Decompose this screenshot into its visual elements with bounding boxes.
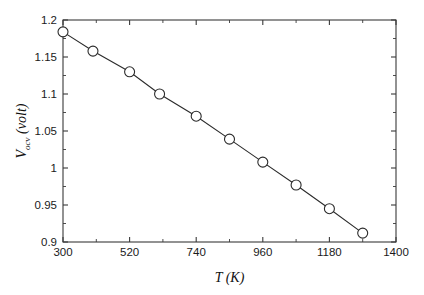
data-point-marker: [358, 228, 368, 238]
y-tick-label: 1.05: [35, 125, 57, 137]
y-tick-label: 1: [51, 162, 57, 174]
chart-figure: 30052074096011801400 0.90.9511.051.11.15…: [0, 0, 424, 295]
y-axis-title-group: Vocv (volt): [14, 103, 32, 158]
y-tick-label: 1.1: [41, 88, 57, 100]
x-tick-label: 1180: [317, 246, 342, 258]
data-point-marker: [258, 157, 268, 167]
voltage-vs-temperature-chart: 30052074096011801400 0.90.9511.051.11.15…: [0, 0, 424, 295]
x-tick-label: 520: [120, 246, 139, 258]
y-tick-label: 1.2: [41, 14, 57, 26]
x-axis-title: T (K): [215, 270, 245, 286]
y-tick-label: 0.9: [41, 236, 57, 248]
y-axis-title-text: Vocv (volt): [14, 103, 32, 158]
data-point-marker: [225, 134, 235, 144]
x-axis-title-text: T (K): [215, 270, 245, 286]
data-point-marker: [291, 180, 301, 190]
x-tick-label: 1400: [383, 246, 409, 258]
y-tick-label: 1.15: [35, 51, 57, 63]
data-point-marker: [88, 46, 98, 56]
y-tick-label: 0.95: [35, 199, 57, 211]
x-tick-label: 960: [253, 246, 272, 258]
data-point-marker: [155, 89, 165, 99]
data-point-marker: [324, 204, 334, 214]
data-point-marker: [58, 27, 68, 37]
data-point-marker: [125, 67, 135, 77]
x-tick-label: 740: [187, 246, 206, 258]
data-point-marker: [191, 111, 201, 121]
y-axis-title: Vocv (volt): [14, 103, 32, 158]
